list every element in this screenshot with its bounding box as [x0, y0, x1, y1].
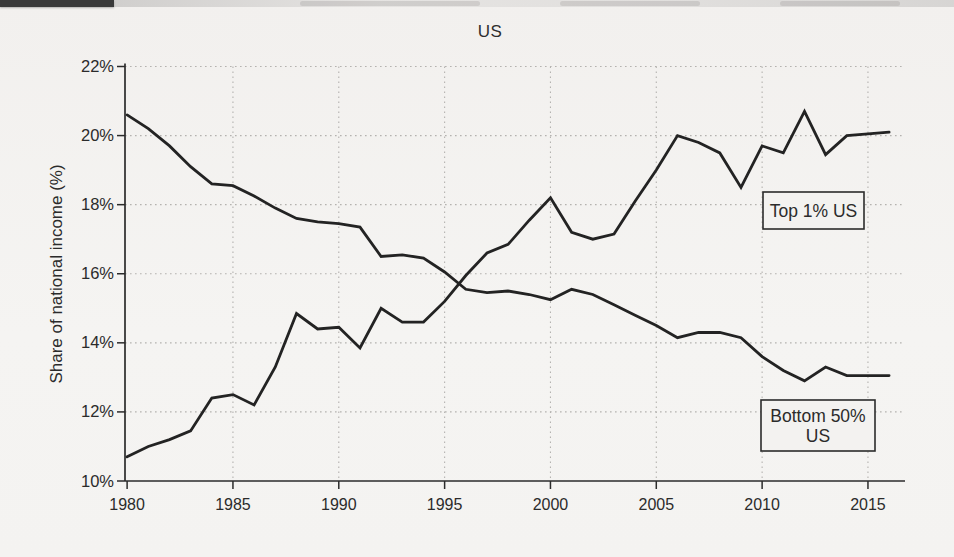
x-tick-label: 1980 — [109, 496, 145, 513]
y-tick-label: 12% — [81, 402, 114, 420]
x-tick-label: 1990 — [321, 496, 357, 513]
series-label-text: Bottom 50% — [770, 406, 865, 426]
y-tick-label: 20% — [81, 126, 114, 144]
y-tick-label: 16% — [81, 264, 114, 282]
x-tick-label: 2005 — [638, 496, 674, 513]
y-tick-label: 14% — [81, 333, 114, 351]
y-tick-label: 22% — [81, 57, 114, 75]
x-tick-label: 1995 — [427, 496, 463, 513]
y-tick-label: 18% — [81, 195, 114, 213]
series-line-bottom50 — [127, 115, 889, 381]
y-tick-label: 10% — [81, 472, 114, 490]
series-label-text: Top 1% US — [770, 201, 858, 221]
x-tick-label: 2000 — [533, 496, 569, 513]
series-label-text: US — [806, 426, 830, 446]
scanned-book-figure-page: US 10%12%14%16%18%20%22%1980198519901995… — [0, 0, 954, 557]
x-tick-label: 2010 — [744, 496, 780, 513]
y-axis-title: Share of national income (%) — [47, 164, 66, 383]
x-tick-label: 2015 — [850, 496, 886, 513]
inequality-line-chart: 10%12%14%16%18%20%22%1980198519901995200… — [0, 0, 954, 557]
x-tick-label: 1985 — [215, 496, 251, 513]
